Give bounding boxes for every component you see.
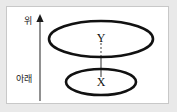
- axis-bottom-label: 아래: [16, 74, 32, 84]
- node-x-label: X: [97, 75, 106, 89]
- node-y-label: Y: [97, 31, 106, 45]
- arrow-head-icon: [36, 14, 43, 22]
- vertical-direction-arrow: [36, 14, 43, 101]
- axis-top-label: 위: [24, 16, 32, 26]
- figure-root: Y X 위 아래: [0, 0, 177, 112]
- figure-diagram: Y X 위 아래: [7, 7, 168, 103]
- figure-panel: Y X 위 아래: [6, 6, 169, 104]
